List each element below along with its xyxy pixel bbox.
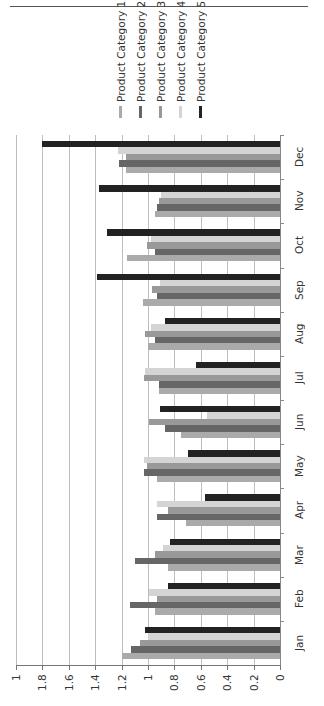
bar <box>168 564 280 570</box>
value-tick <box>16 665 17 670</box>
category-tick <box>280 444 284 445</box>
bar <box>160 406 280 412</box>
category-tick <box>280 488 284 489</box>
category-label: Dec <box>290 137 308 177</box>
bar <box>168 583 280 589</box>
gridline <box>95 135 96 665</box>
value-tick <box>227 665 228 670</box>
value-tick <box>174 665 175 670</box>
bar <box>149 589 280 595</box>
bar <box>152 286 280 292</box>
legend-swatch <box>159 106 162 118</box>
category-tick <box>280 577 284 578</box>
bar <box>42 141 280 147</box>
bar <box>151 236 280 242</box>
bar <box>99 185 280 191</box>
legend-swatch <box>119 106 122 118</box>
bar <box>151 324 280 330</box>
value-tick-label: 1.2 <box>115 674 129 704</box>
bar <box>148 343 280 349</box>
category-tick <box>280 179 284 180</box>
bar <box>157 596 280 602</box>
bar <box>144 469 280 475</box>
value-tick-label: 1.4 <box>88 674 102 704</box>
value-tick <box>254 665 255 670</box>
bar <box>186 520 280 526</box>
gridline <box>122 135 123 665</box>
value-tick <box>42 665 43 670</box>
value-tick <box>95 665 96 670</box>
category-label: Feb <box>290 579 308 619</box>
category-tick <box>280 268 284 269</box>
bar <box>145 368 280 374</box>
category-label: Apr <box>290 490 308 530</box>
bar <box>188 450 280 456</box>
category-label: Jan <box>290 623 308 663</box>
bar <box>131 646 280 652</box>
bar <box>147 463 280 469</box>
legend-swatch <box>199 106 202 118</box>
value-tick-label: 0.4 <box>220 674 234 704</box>
value-tick-label: 0.8 <box>167 674 181 704</box>
category-label: Jul <box>290 358 308 398</box>
category-label: May <box>290 446 308 486</box>
legend-label: Product Category 3 <box>152 10 170 102</box>
bar <box>118 147 280 153</box>
category-tick <box>280 356 284 357</box>
legend-label: Product Category 5 <box>192 10 210 102</box>
category-label: Sep <box>290 270 308 310</box>
bar <box>159 388 280 394</box>
bar <box>196 362 280 368</box>
category-tick <box>280 400 284 401</box>
bar <box>170 539 280 545</box>
bar <box>159 381 280 387</box>
value-tick-label: 1.6 <box>62 674 76 704</box>
legend-item-5: Product Category 5 <box>192 10 210 118</box>
bar <box>145 627 280 633</box>
value-tick-label: 0.2 <box>247 674 261 704</box>
bar <box>157 204 280 210</box>
bar <box>157 476 280 482</box>
bar <box>122 653 280 659</box>
bar <box>127 255 280 261</box>
gridline <box>42 135 43 665</box>
legend-item-3: Product Category 3 <box>152 10 170 118</box>
bar <box>135 558 280 564</box>
bar <box>161 192 280 198</box>
bar <box>181 432 280 438</box>
legend-item-4: Product Category 4 <box>172 10 190 118</box>
bar <box>144 375 280 381</box>
bar <box>143 299 280 305</box>
category-tick <box>280 135 284 136</box>
bar <box>157 293 280 299</box>
value-tick <box>280 665 281 670</box>
bar <box>147 242 280 248</box>
bar <box>126 154 280 160</box>
legend-item-1: Product Category 1 <box>112 10 130 118</box>
legend-item-2: Product Category 2 <box>132 10 150 118</box>
legend-swatch <box>179 106 182 118</box>
bar <box>149 419 280 425</box>
value-tick <box>148 665 149 670</box>
bar <box>159 198 280 204</box>
gridline <box>148 135 149 665</box>
value-tick <box>201 665 202 670</box>
chart-legend: Product Category 1 Product Category 2 Pr… <box>112 10 212 118</box>
bar <box>107 229 280 235</box>
category-label: Oct <box>290 225 308 265</box>
category-tick <box>280 312 284 313</box>
bar <box>157 501 280 507</box>
bar <box>157 514 280 520</box>
bar <box>97 274 280 280</box>
bar <box>207 412 280 418</box>
category-label: Aug <box>290 314 308 354</box>
bar <box>163 545 280 551</box>
bar <box>155 551 280 557</box>
bar <box>126 167 280 173</box>
value-tick-label: 1 <box>9 674 23 704</box>
legend-label: Product Category 1 <box>112 10 130 102</box>
bar <box>140 640 280 646</box>
value-tick-label: 1.8 <box>35 674 49 704</box>
legend-swatch <box>139 106 142 118</box>
category-tick <box>280 223 284 224</box>
